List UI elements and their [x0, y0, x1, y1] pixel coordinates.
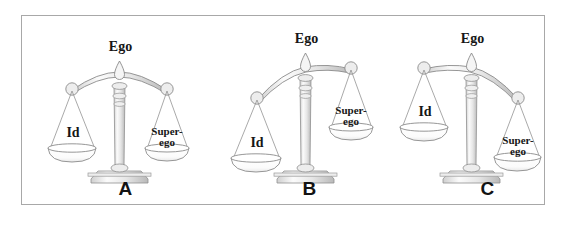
- label-superego-c-line2: ego: [494, 146, 542, 157]
- scale-diagram-c: Ego Id Super-ego C: [394, 16, 566, 204]
- scale-pointer-b: [301, 53, 311, 72]
- label-ego-a: Ego: [98, 40, 143, 54]
- label-id-c: Id: [409, 105, 441, 119]
- caption-b: B: [222, 178, 397, 200]
- label-superego-c-line1: Super-: [502, 134, 533, 146]
- scale-column-c: [463, 75, 480, 172]
- label-superego-b-line1: Super-: [335, 104, 366, 116]
- scale-diagram-b: Ego Id Super-ego B: [218, 16, 393, 204]
- figure-frame: Ego Id Super-ego A: [21, 15, 545, 205]
- label-superego-c: Super-ego: [494, 135, 542, 157]
- figure-canvas: Ego Id Super-ego A: [0, 0, 566, 226]
- label-superego-a-line2: ego: [143, 137, 191, 148]
- scale-pointer-a: [115, 61, 125, 80]
- label-id-a: Id: [57, 126, 89, 140]
- label-superego-a: Super-ego: [143, 126, 191, 148]
- label-superego-b-line2: ego: [327, 116, 375, 127]
- scale-diagram-a: Ego Id Super-ego A: [38, 16, 213, 204]
- caption-c: C: [400, 178, 566, 200]
- label-id-b: Id: [241, 136, 273, 150]
- scale-column-a: [111, 83, 128, 172]
- caption-a: A: [38, 178, 213, 200]
- scale-column-b: [297, 75, 314, 172]
- label-ego-c: Ego: [450, 32, 495, 46]
- label-superego-a-line1: Super-: [151, 125, 182, 137]
- label-ego-b: Ego: [284, 32, 329, 46]
- scale-pointer-c: [467, 53, 477, 72]
- label-superego-b: Super-ego: [327, 105, 375, 127]
